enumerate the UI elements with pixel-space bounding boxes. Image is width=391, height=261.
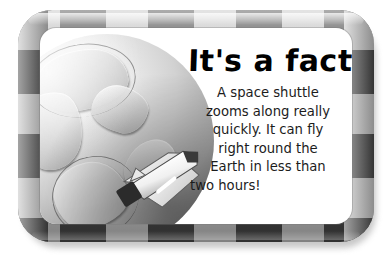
fact-body-line: right round the — [188, 140, 348, 159]
page-title: It's a fact! — [187, 44, 348, 78]
fact-card: It's a fact! A space shuttle zooms along… — [0, 0, 391, 261]
fact-body-line: Earth in less than — [188, 158, 348, 177]
fact-body-line: A space shuttle — [188, 84, 348, 103]
globe-coastline — [40, 37, 141, 124]
card-panel: It's a fact! A space shuttle zooms along… — [40, 28, 352, 224]
globe-landmass — [87, 80, 152, 138]
card-frame: It's a fact! A space shuttle zooms along… — [18, 10, 374, 242]
card-text-column: It's a fact! A space shuttle zooms along… — [188, 44, 348, 196]
fact-body-line: quickly. It can fly — [188, 121, 348, 140]
fact-body-line: two hours! — [188, 177, 348, 196]
fact-body-text: A space shuttle zooms along really quick… — [188, 84, 348, 196]
globe-landmass — [40, 89, 86, 173]
globe-landmass — [40, 43, 132, 117]
fact-body-line: zooms along really — [188, 103, 348, 122]
